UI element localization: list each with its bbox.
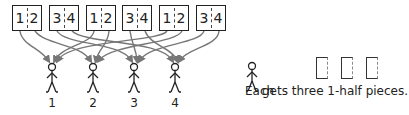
- half-piece-icon: [316, 57, 328, 79]
- half-label: 2: [27, 6, 41, 30]
- person-number: 4: [165, 96, 185, 110]
- people-figures: [46, 63, 258, 93]
- fraction-box: 3 4: [196, 5, 226, 31]
- fraction-box: 3 4: [49, 5, 79, 31]
- half-label: 4: [137, 6, 151, 30]
- half-label: 3: [50, 6, 64, 30]
- fraction-box: 1 2: [86, 5, 116, 31]
- half-piece-icon: [366, 57, 378, 79]
- half-label: 1: [87, 6, 101, 30]
- caption-suffix: gets three 1-half pieces.: [262, 84, 408, 98]
- half-piece-icon: [341, 57, 353, 79]
- fraction-box: 1 2: [12, 5, 42, 31]
- fraction-box: 1 2: [159, 5, 189, 31]
- half-label: 1: [13, 6, 27, 30]
- half-label: 4: [211, 6, 225, 30]
- fraction-box: 3 4: [122, 5, 152, 31]
- half-label: 2: [174, 6, 188, 30]
- half-label: 3: [123, 6, 137, 30]
- person-number: 1: [42, 96, 62, 110]
- person-number: 3: [124, 96, 144, 110]
- person-number: 2: [83, 96, 103, 110]
- half-label: 1: [160, 6, 174, 30]
- half-label: 2: [101, 6, 115, 30]
- half-label: 3: [197, 6, 211, 30]
- half-label: 4: [64, 6, 78, 30]
